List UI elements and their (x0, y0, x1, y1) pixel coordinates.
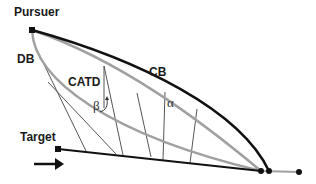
cb-label: CB (149, 66, 166, 78)
transversal-line-5 (163, 92, 165, 160)
motion-arrow-icon (55, 158, 64, 170)
target-trajectory (58, 149, 261, 171)
pursuer-label: Pursuer (14, 6, 59, 18)
intercept-point-3-icon (296, 169, 302, 175)
intercept-point-2-icon (266, 168, 272, 174)
transversal-line-4 (137, 93, 151, 157)
diagram-canvas (0, 0, 316, 184)
beta-label: β (93, 99, 100, 112)
pursuit-diagram: Pursuer DB CATD CB Target α β (0, 0, 316, 184)
catd-label: CATD (68, 76, 100, 88)
transversal-line-3 (104, 66, 123, 155)
target-marker-icon (55, 146, 61, 152)
beta-arrowhead-icon (105, 96, 109, 100)
pursuer-marker-icon (29, 27, 35, 33)
db-label: DB (17, 53, 34, 65)
target-label: Target (20, 131, 56, 143)
intercept-point-1-icon (258, 168, 264, 174)
alpha-label: α (167, 96, 174, 109)
